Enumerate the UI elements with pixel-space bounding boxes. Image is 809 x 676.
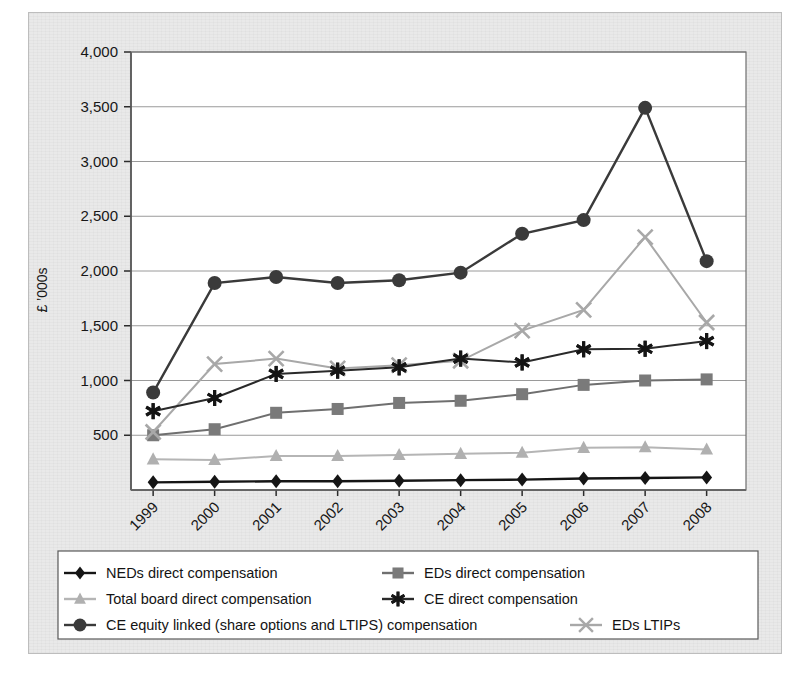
legend-label: CE direct compensation	[424, 591, 578, 607]
marker-circle	[269, 270, 283, 284]
marker-square	[701, 373, 713, 385]
marker-circle	[74, 619, 87, 632]
x-tick-label: 2001	[249, 498, 285, 534]
chart-figure: 5001,0001,5002,0002,5003,0003,5004,000£ …	[0, 0, 809, 676]
marker-circle	[700, 254, 714, 268]
marker-circle	[146, 386, 160, 400]
marker-circle	[392, 273, 406, 287]
x-tick-label: 2000	[187, 498, 223, 534]
y-tick-label: 3,000	[80, 153, 118, 170]
line-chart: 5001,0001,5002,0002,5003,0003,5004,000£ …	[0, 0, 809, 676]
y-tick-label: 2,000	[80, 262, 118, 279]
y-tick-label: 2,500	[80, 207, 118, 224]
x-tick-label: 2003	[372, 498, 408, 534]
marker-circle	[454, 266, 468, 280]
legend-label: CE equity linked (share options and LTIP…	[106, 617, 477, 633]
x-tick-label: 2002	[310, 498, 346, 534]
y-tick-label: 1,000	[80, 372, 118, 389]
marker-circle	[515, 227, 529, 241]
marker-square	[455, 395, 467, 407]
y-tick-label: 4,000	[80, 43, 118, 60]
marker-circle	[208, 276, 222, 290]
y-tick-label: 500	[93, 426, 118, 443]
y-tick-label: 3,500	[80, 98, 118, 115]
y-tick-label: 1,500	[80, 317, 118, 334]
marker-square	[393, 397, 405, 409]
x-tick-label: 2008	[679, 498, 715, 534]
legend-label: EDs direct compensation	[424, 565, 585, 581]
x-tick-label: 2004	[433, 498, 469, 534]
marker-square	[578, 379, 590, 391]
marker-circle	[638, 101, 652, 115]
marker-circle	[577, 213, 591, 227]
x-tick-label: 1999	[126, 498, 162, 534]
marker-square	[209, 423, 221, 435]
y-axis-title: £ ’000s	[34, 267, 50, 312]
legend-label: Total board direct compensation	[106, 591, 312, 607]
x-tick-label: 2006	[556, 498, 592, 534]
legend-label: EDs LTIPs	[612, 617, 680, 633]
marker-circle	[331, 276, 345, 290]
legend-item-4[interactable]: CE equity linked (share options and LTIP…	[64, 617, 477, 633]
marker-square	[332, 403, 344, 415]
x-tick-label: 2005	[495, 498, 531, 534]
marker-square	[270, 407, 282, 419]
marker-square	[516, 388, 528, 400]
legend-label: NEDs direct compensation	[106, 565, 278, 581]
x-tick-label: 2007	[618, 498, 654, 534]
chart-page: 5001,0001,5002,0002,5003,0003,5004,000£ …	[0, 0, 809, 676]
marker-square	[639, 375, 651, 387]
marker-square	[392, 567, 403, 578]
